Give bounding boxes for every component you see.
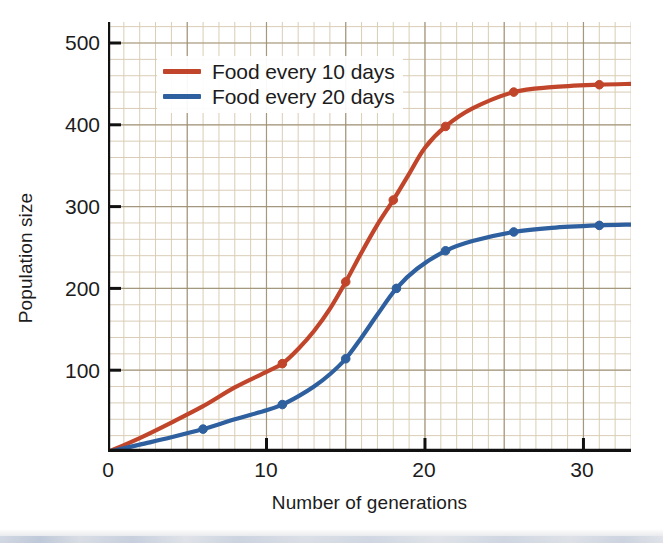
data-point bbox=[441, 122, 450, 131]
y-tick-label-100: 100 bbox=[42, 359, 100, 383]
legend-swatch-series-2 bbox=[163, 94, 201, 99]
x-tick-label-20: 20 bbox=[394, 458, 454, 482]
data-point bbox=[341, 354, 350, 363]
data-point bbox=[392, 284, 401, 293]
x-tick-label-0: 0 bbox=[78, 458, 138, 482]
series-1-line bbox=[108, 84, 631, 452]
series-2-markers bbox=[199, 221, 604, 433]
legend-item-food-every-20-days[interactable]: Food every 20 days bbox=[163, 84, 395, 109]
legend-swatch-series-1 bbox=[163, 69, 201, 74]
y-tick-label-300: 300 bbox=[42, 195, 100, 219]
x-tick-label-30: 30 bbox=[552, 458, 612, 482]
series-2-line bbox=[108, 225, 631, 452]
legend-label-series-1: Food every 10 days bbox=[212, 60, 395, 84]
data-point bbox=[278, 359, 287, 368]
legend-label-series-2: Food every 20 days bbox=[212, 85, 395, 109]
x-tick-label-10: 10 bbox=[236, 458, 296, 482]
data-point bbox=[441, 246, 450, 255]
data-point bbox=[509, 88, 518, 97]
y-tick-label-400: 400 bbox=[42, 113, 100, 137]
data-point bbox=[509, 228, 518, 237]
y-axis-title: Population size bbox=[15, 158, 37, 358]
data-point bbox=[341, 278, 350, 287]
page-edge-color-strip bbox=[0, 536, 663, 543]
data-point bbox=[595, 221, 604, 230]
y-tick-label-500: 500 bbox=[42, 31, 100, 55]
data-point bbox=[199, 425, 208, 434]
legend-item-food-every-10-days[interactable]: Food every 10 days bbox=[163, 59, 395, 84]
y-tick-label-200: 200 bbox=[42, 277, 100, 301]
data-point bbox=[278, 400, 287, 409]
data-point bbox=[595, 80, 604, 89]
chart-figure: Population size 500 400 300 200 100 0 10… bbox=[0, 0, 663, 543]
chart-legend: Food every 10 days Food every 20 days bbox=[157, 56, 403, 113]
x-axis-title: Number of generations bbox=[108, 492, 631, 514]
data-point bbox=[389, 196, 398, 205]
